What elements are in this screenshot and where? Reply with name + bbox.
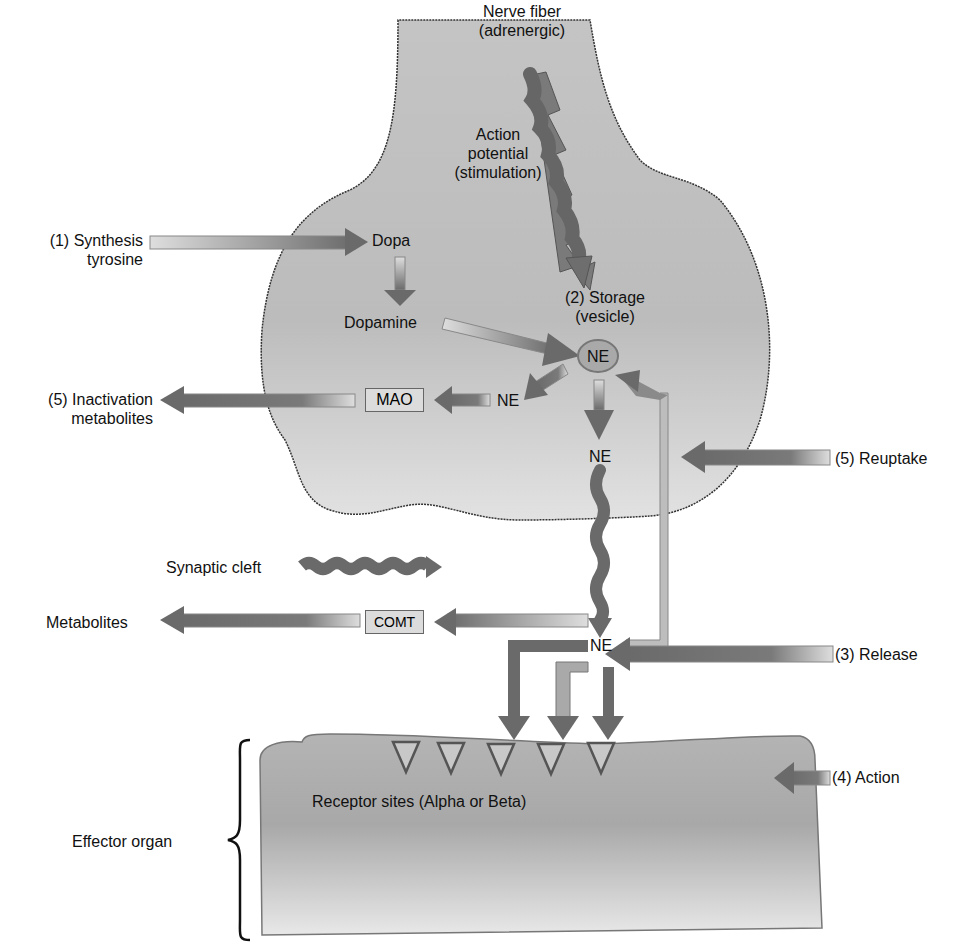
action-potential-line3: (stimulation) bbox=[438, 163, 558, 182]
dopamine-label: Dopamine bbox=[344, 313, 417, 332]
synaptic-cleft-label: Synaptic cleft bbox=[166, 558, 261, 577]
synthesis-line2: tyrosine bbox=[0, 250, 143, 269]
action-label: (4) Action bbox=[832, 768, 900, 787]
ne-mao-label: NE bbox=[497, 391, 519, 410]
mao-enzyme-box: MAO bbox=[365, 388, 424, 412]
release-label: (3) Release bbox=[835, 645, 918, 664]
inactivation-label: (5) Inactivation metabolites bbox=[0, 390, 153, 428]
ne-cleft-label: NE bbox=[590, 636, 612, 655]
receptor-sites-label: Receptor sites (Alpha or Beta) bbox=[312, 792, 526, 811]
effector-organ-label: Effector organ bbox=[72, 832, 172, 851]
synaptic-cleft-arrow-icon bbox=[302, 556, 442, 578]
storage-label: (2) Storage (vesicle) bbox=[550, 288, 660, 326]
effector-organ-shape bbox=[260, 734, 822, 935]
nerve-fiber-line1: Nerve fiber bbox=[462, 2, 582, 21]
reuptake-arrow-icon bbox=[681, 441, 830, 473]
action-potential-line1: Action bbox=[438, 125, 558, 144]
nerve-fiber-line2: (adrenergic) bbox=[462, 21, 582, 40]
dopa-label: Dopa bbox=[372, 231, 410, 250]
comt-enzyme-box: COMT bbox=[365, 610, 424, 634]
storage-line2: (vesicle) bbox=[550, 307, 660, 326]
reuptake-label: (5) Reuptake bbox=[835, 449, 928, 468]
metabolites-label: Metabolites bbox=[46, 613, 128, 632]
storage-line1: (2) Storage bbox=[550, 288, 660, 307]
effector-organ-brace bbox=[228, 740, 250, 940]
action-potential-label: Action potential (stimulation) bbox=[438, 125, 558, 182]
inactivation-line2: metabolites bbox=[0, 409, 153, 428]
ne-to-comt-arrow-icon bbox=[434, 608, 588, 636]
synthesis-line1: (1) Synthesis bbox=[0, 231, 143, 250]
vesicle-ne-label: NE bbox=[578, 347, 618, 366]
ne-lower-label: NE bbox=[580, 447, 620, 466]
action-potential-line2: potential bbox=[438, 144, 558, 163]
inactivation-line1: (5) Inactivation bbox=[0, 390, 153, 409]
nerve-terminal-shape bbox=[261, 20, 769, 520]
metabolites-arrow-icon bbox=[160, 606, 360, 634]
synthesis-label: (1) Synthesis tyrosine bbox=[0, 231, 143, 269]
ne-to-receptor-arrows-icon bbox=[498, 640, 624, 740]
nerve-fiber-label: Nerve fiber (adrenergic) bbox=[462, 2, 582, 40]
